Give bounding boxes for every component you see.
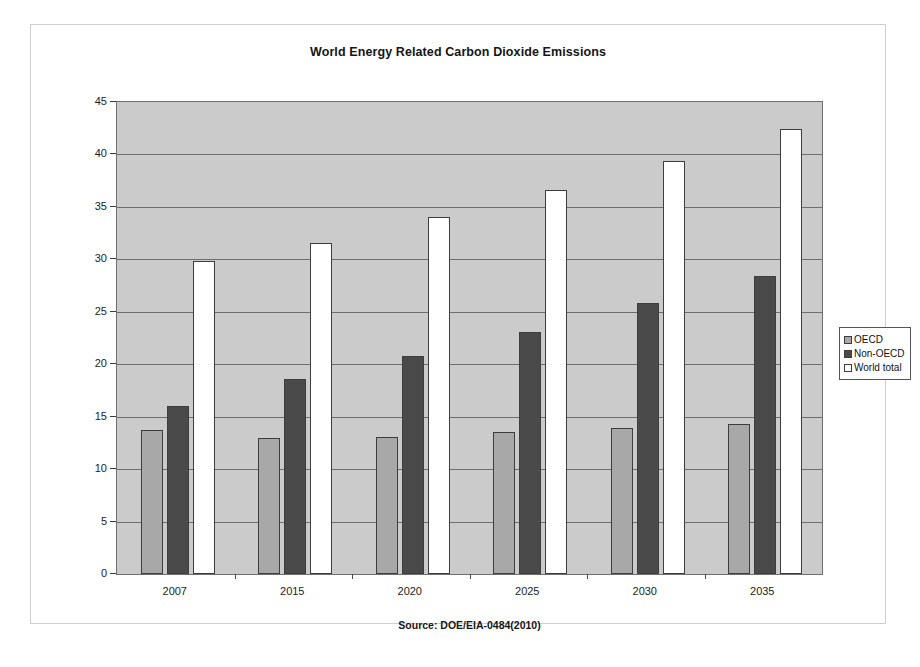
- bar-world-total-2035[interactable]: [780, 129, 802, 574]
- y-axis-tick-mark: [110, 311, 116, 312]
- legend-label-oecd: OECD: [854, 333, 883, 346]
- y-axis-tick-label: 0: [73, 567, 107, 579]
- x-axis-tick-mark: [352, 574, 353, 579]
- x-axis-tick-label: 2020: [398, 585, 422, 597]
- bar-group: [470, 102, 588, 574]
- legend-swatch-icon-world-total: [844, 364, 852, 372]
- legend-item-world-total: World total: [844, 361, 905, 374]
- legend-swatch-icon-oecd: [844, 336, 852, 344]
- bar-non-oecd-2020[interactable]: [402, 356, 424, 574]
- y-axis-tick-mark: [110, 573, 116, 574]
- y-axis-tick-mark: [110, 258, 116, 259]
- bar-group: [352, 102, 470, 574]
- plot-area: [116, 101, 823, 575]
- bar-oecd-2025[interactable]: [493, 432, 515, 574]
- bar-non-oecd-2025[interactable]: [519, 332, 541, 574]
- x-axis-tick-label: 2015: [280, 585, 304, 597]
- bar-world-total-2007[interactable]: [193, 261, 215, 574]
- bar-world-total-2020[interactable]: [428, 217, 450, 574]
- y-axis-tick-label: 45: [73, 95, 107, 107]
- y-axis-tick-label: 35: [73, 200, 107, 212]
- y-axis-tick-mark: [110, 206, 116, 207]
- y-axis-tick-label: 20: [73, 357, 107, 369]
- chart-page-frame: World Energy Related Carbon Dioxide Emis…: [30, 24, 886, 624]
- bar-non-oecd-2007[interactable]: [167, 406, 189, 574]
- x-axis-tick-label: 2030: [633, 585, 657, 597]
- legend-label-world-total: World total: [854, 361, 902, 374]
- y-axis-tick-mark: [110, 101, 116, 102]
- y-axis-tick-label: 10: [73, 462, 107, 474]
- x-axis-tick-mark: [235, 574, 236, 579]
- y-axis-tick-mark: [110, 468, 116, 469]
- bar-oecd-2020[interactable]: [376, 437, 398, 574]
- bar-oecd-2015[interactable]: [258, 438, 280, 574]
- y-axis-tick-mark: [110, 416, 116, 417]
- chart-legend: OECD Non-OECD World total: [839, 327, 911, 380]
- x-axis-tick-mark: [705, 574, 706, 579]
- y-axis-tick-label: 15: [73, 410, 107, 422]
- bar-group: [235, 102, 353, 574]
- bars-layer: [117, 102, 822, 574]
- y-axis-tick-mark: [110, 363, 116, 364]
- bar-world-total-2025[interactable]: [545, 190, 567, 574]
- x-axis-tick-label: 2035: [750, 585, 774, 597]
- chart-title: World Energy Related Carbon Dioxide Emis…: [31, 45, 885, 59]
- x-axis-tick-label: 2025: [515, 585, 539, 597]
- bar-non-oecd-2030[interactable]: [637, 303, 659, 574]
- x-axis-tick-mark: [470, 574, 471, 579]
- bar-group: [705, 102, 823, 574]
- x-axis-tick-mark: [587, 574, 588, 579]
- legend-item-oecd: OECD: [844, 333, 905, 346]
- y-axis-tick-label: 40: [73, 147, 107, 159]
- bar-oecd-2035[interactable]: [728, 424, 750, 574]
- source-note: Source: DOE/EIA-0484(2010): [116, 619, 823, 631]
- bar-world-total-2015[interactable]: [310, 243, 332, 574]
- legend-item-non-oecd: Non-OECD: [844, 347, 905, 360]
- legend-label-non-oecd: Non-OECD: [854, 347, 905, 360]
- y-axis-tick-mark: [110, 521, 116, 522]
- y-axis-tick-label: 30: [73, 252, 107, 264]
- bar-group: [117, 102, 235, 574]
- bar-oecd-2007[interactable]: [141, 430, 163, 574]
- bar-world-total-2030[interactable]: [663, 161, 685, 574]
- bar-non-oecd-2035[interactable]: [754, 276, 776, 574]
- legend-swatch-icon-non-oecd: [844, 350, 852, 358]
- bar-oecd-2030[interactable]: [611, 428, 633, 574]
- bar-non-oecd-2015[interactable]: [284, 379, 306, 574]
- y-axis-tick-mark: [110, 153, 116, 154]
- bar-group: [587, 102, 705, 574]
- x-axis-tick-label: 2007: [163, 585, 187, 597]
- y-axis-tick-label: 25: [73, 305, 107, 317]
- y-axis-tick-label: 5: [73, 515, 107, 527]
